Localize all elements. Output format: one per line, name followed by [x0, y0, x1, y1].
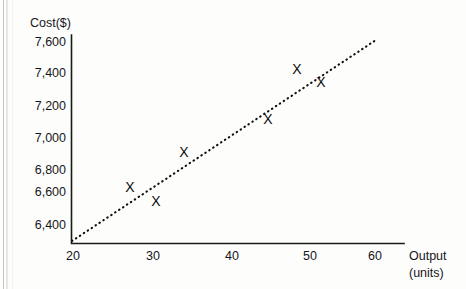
x-tick-label: 50 — [303, 249, 317, 263]
trend-line — [72, 40, 376, 241]
y-tick-label: 7,200 — [35, 99, 66, 113]
data-point-marker: X — [263, 111, 273, 127]
y-tick-label: 7,600 — [35, 35, 66, 49]
x-axis-tick-labels: 20 30 40 50 60 — [66, 249, 382, 263]
axis-lines — [72, 35, 405, 244]
x-tick-label: 40 — [225, 249, 239, 263]
y-tick-label: 6,400 — [35, 218, 66, 232]
data-point-marker: X — [125, 179, 135, 195]
x-axis-title-line-2: (units) — [409, 266, 444, 280]
plot-area: Cost($) 7,600 7,400 7,200 7,000 6,800 6,… — [0, 0, 466, 289]
y-tick-label: 6,600 — [35, 185, 66, 199]
scatter-chart-figure: Cost($) 7,600 7,400 7,200 7,000 6,800 6,… — [0, 0, 466, 289]
x-tick-label: 30 — [146, 249, 160, 263]
y-axis-tick-labels: 7,600 7,400 7,200 7,000 6,800 6,600 6,40… — [35, 35, 66, 232]
x-axis-title-line-1: Output — [409, 249, 447, 263]
data-point-marker: X — [151, 193, 161, 209]
y-tick-label: 7,000 — [35, 131, 66, 145]
y-tick-label: 7,400 — [35, 66, 66, 80]
y-axis-title: Cost($) — [30, 16, 71, 30]
x-tick-label: 20 — [66, 249, 80, 263]
data-point-marker: X — [179, 144, 189, 160]
chart-svg: Cost($) 7,600 7,400 7,200 7,000 6,800 6,… — [0, 0, 466, 289]
data-point-marker: X — [316, 74, 326, 90]
y-tick-label: 6,800 — [35, 163, 66, 177]
x-tick-label: 60 — [368, 249, 382, 263]
data-point-marker: X — [292, 61, 302, 77]
